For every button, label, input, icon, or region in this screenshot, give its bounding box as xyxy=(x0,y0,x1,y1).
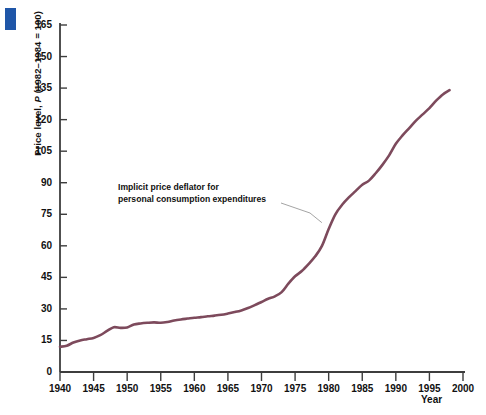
series-layer xyxy=(60,90,450,347)
annotation-leader-layer xyxy=(281,203,322,223)
annotation-leader-line xyxy=(281,203,322,223)
plot-area xyxy=(0,0,486,415)
price-level-line xyxy=(60,90,450,347)
chart-figure: Price level, P (1982–1984 = 100) Year Im… xyxy=(0,0,486,415)
